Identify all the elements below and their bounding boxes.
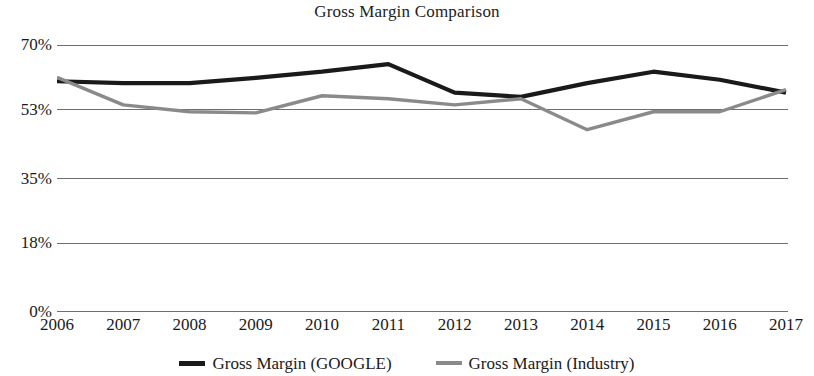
legend-line-swatch-icon (179, 361, 205, 366)
x-axis-tick-label: 2011 (358, 314, 418, 336)
x-axis-tick-label: 2014 (557, 314, 617, 336)
x-axis-tick-label: 2013 (491, 314, 551, 336)
chart-legend: Gross Margin (GOOGLE)Gross Margin (Indus… (0, 350, 814, 376)
legend-line-swatch-icon (436, 361, 462, 365)
x-axis-tick-label: 2007 (93, 314, 153, 336)
series-line-google (57, 64, 786, 97)
x-axis-tick-label: 2015 (623, 314, 683, 336)
x-axis-tick-label: 2012 (425, 314, 485, 336)
x-axis-tick-label: 2016 (690, 314, 750, 336)
legend-item: Gross Margin (Industry) (436, 354, 635, 373)
chart-container: Gross Margin Comparison 70%53%35%18%0% 2… (0, 0, 814, 376)
y-axis-tick-label: 35% (0, 170, 52, 187)
plot-area (57, 45, 788, 312)
x-axis: 2006200720082009201020112012201320142015… (0, 314, 814, 338)
chart-title: Gross Margin Comparison (0, 2, 814, 22)
legend-label: Gross Margin (GOOGLE) (212, 354, 391, 373)
legend-item: Gross Margin (GOOGLE) (179, 354, 391, 373)
x-axis-tick-label: 2010 (292, 314, 352, 336)
y-axis-tick-label: 18% (0, 234, 52, 251)
x-axis-tick-label: 2009 (226, 314, 286, 336)
y-axis-tick-label: 70% (0, 36, 52, 53)
y-axis-tick-label: 53% (0, 101, 52, 118)
series-lines (57, 45, 788, 312)
x-axis-tick-label: 2008 (160, 314, 220, 336)
legend-label: Gross Margin (Industry) (469, 354, 635, 373)
x-axis-tick-label: 2006 (27, 314, 87, 336)
y-axis: 70%53%35%18%0% (0, 45, 52, 312)
series-line-industry (57, 77, 786, 129)
x-axis-tick-label: 2017 (756, 314, 814, 336)
